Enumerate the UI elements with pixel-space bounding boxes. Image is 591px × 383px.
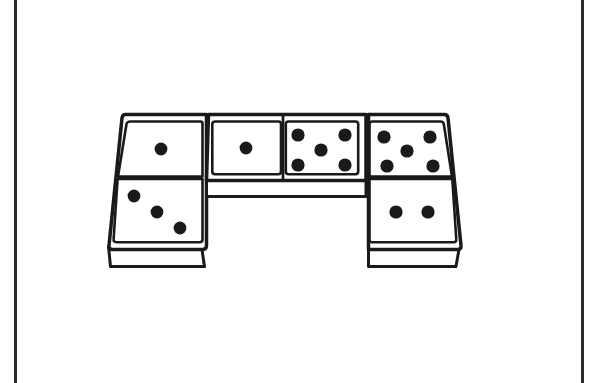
face-middle-left xyxy=(212,122,281,175)
domino-right xyxy=(369,115,462,267)
pip xyxy=(151,206,164,219)
pip xyxy=(338,158,351,171)
pip xyxy=(174,222,187,235)
face-right-bottom-outline xyxy=(370,179,457,242)
domino-left xyxy=(109,115,207,267)
pip xyxy=(389,205,402,218)
pip xyxy=(240,142,253,155)
pip xyxy=(128,190,141,203)
pip xyxy=(380,159,393,172)
face-left-bottom xyxy=(114,179,203,242)
figure-page: Three dominoes arranged in a bridge shap… xyxy=(0,0,591,383)
face-middle-right xyxy=(286,122,358,175)
domino-middle-bottom-edge xyxy=(207,180,367,197)
pip xyxy=(155,143,168,156)
face-right-top xyxy=(370,122,453,177)
pip xyxy=(314,143,327,156)
domino-figure xyxy=(0,0,591,383)
pip xyxy=(423,130,436,143)
pip xyxy=(338,128,351,141)
face-left-top xyxy=(118,122,203,177)
pip xyxy=(377,130,390,143)
pip xyxy=(291,128,304,141)
pip xyxy=(291,158,304,171)
face-right-bottom xyxy=(370,179,457,242)
pip xyxy=(421,205,434,218)
domino-middle xyxy=(207,115,367,197)
pip xyxy=(426,159,439,172)
pip xyxy=(400,144,413,157)
